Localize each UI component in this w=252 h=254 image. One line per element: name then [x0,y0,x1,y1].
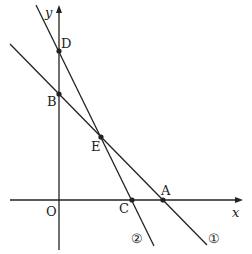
point-label-d: D [61,36,71,51]
x-axis-arrow-icon [235,197,243,203]
line-label-1: ① [208,231,220,246]
line-label-2: ② [131,231,143,246]
point-label-e: E [91,139,101,154]
origin-label: O [46,204,57,219]
x-axis-label: x [232,205,240,220]
point-a [160,197,165,202]
y-axis-label: y [44,5,53,20]
point-b [56,91,61,96]
y-axis-arrow-icon [56,5,62,13]
point-label-b: B [47,94,57,109]
point-c [129,197,134,202]
coordinate-diagram: y x O D B E C A ② ① [0,0,252,254]
line-1 [10,44,207,245]
point-label-c: C [119,201,129,216]
point-label-a: A [160,183,171,198]
